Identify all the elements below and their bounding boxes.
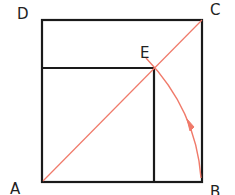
label-a: A bbox=[10, 180, 21, 195]
geometry-diagram: D C E A B bbox=[0, 0, 235, 195]
label-e: E bbox=[140, 44, 149, 62]
label-b: B bbox=[210, 183, 220, 195]
arc-arrow-icon bbox=[187, 119, 194, 131]
label-d: D bbox=[17, 5, 29, 23]
label-c: C bbox=[210, 1, 220, 19]
